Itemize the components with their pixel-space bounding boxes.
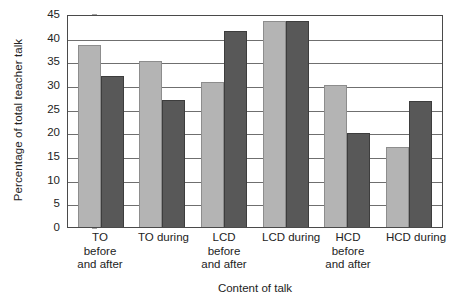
bar-group [263,16,309,227]
x-axis-tick-label: TObeforeand after [76,231,124,281]
x-axis-tick-label-line: before [200,245,248,259]
y-axis-tick-label: 0 [30,222,60,234]
bar [324,85,347,227]
bar-group [78,16,124,227]
bar [139,61,162,227]
plot-area [67,15,443,228]
bar-group [139,16,185,227]
x-axis-tick-label-line: TO [76,231,124,245]
bar [101,76,124,227]
bar [201,82,224,227]
y-axis-title: Percentage of total teacher talk [6,0,30,240]
x-axis-tick-label: HCDbeforeand after [324,231,372,281]
y-axis-tick-label: 15 [30,151,60,163]
bar [224,31,247,227]
x-axis-tick-label-line: HCD [324,231,372,245]
bar [286,21,309,227]
y-axis-tick-label: 20 [30,128,60,140]
x-axis-tick-label-line: and after [76,258,124,272]
bar-group [324,16,370,227]
x-axis-tick-label: TO during [138,231,186,281]
x-axis-tick-label-line: and after [200,258,248,272]
bar-groups [68,16,442,227]
bar [78,45,101,227]
y-axis-tick-label: 10 [30,175,60,187]
x-axis-tick-label-line: HCD during [386,231,434,245]
y-axis-tick-label: 5 [30,199,60,211]
bar [386,147,409,227]
y-axis-tick-label: 30 [30,80,60,92]
x-axis-tick-label: LCDbeforeand after [200,231,248,281]
x-axis-tick-labels: TObeforeand afterTO duringLCDbeforeand a… [67,231,443,281]
y-axis-tick-label: 25 [30,104,60,116]
bar [263,21,286,227]
x-axis-tick-label-line: TO during [138,231,186,245]
x-axis-tick-label-line: LCD [200,231,248,245]
x-axis-tick-label: LCD during [262,231,310,281]
y-axis-tick-label: 35 [30,57,60,69]
y-axis-tick-label: 40 [30,33,60,45]
x-axis-tick-label: HCD during [386,231,434,281]
x-axis-tick-label-line: before [76,245,124,259]
x-axis-title: Content of talk [67,282,443,294]
y-axis-tick-label: 45 [30,9,60,21]
bar [162,100,185,227]
bar-group [201,16,247,227]
bar-chart-figure: Percentage of total teacher talk 0510152… [0,0,459,302]
bar [347,133,370,227]
x-axis-tick-label-line: LCD during [262,231,310,245]
bar [409,101,432,227]
x-axis-tick-label-line: before [324,245,372,259]
y-axis-tick-labels: 051015202530354045 [30,0,60,302]
bar-group [386,16,432,227]
y-axis-title-text: Percentage of total teacher talk [12,39,24,201]
x-axis-tick-label-line: and after [324,258,372,272]
